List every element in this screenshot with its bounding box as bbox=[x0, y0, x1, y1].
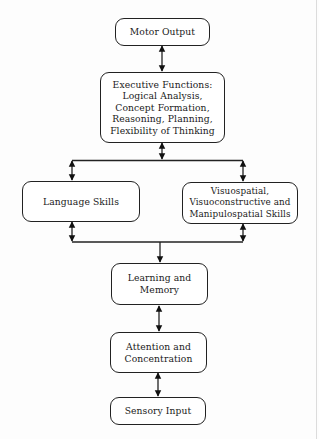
node-label: Motor Output bbox=[130, 26, 195, 38]
node-label: Attention and Concentration bbox=[125, 341, 193, 364]
node-learning-memory: Learning and Memory bbox=[111, 263, 208, 305]
node-attention-concentration: Attention and Concentration bbox=[110, 332, 207, 373]
node-language-skills: Language Skills bbox=[22, 181, 140, 222]
node-label: Visuospatial, Visuoconstructive and Mani… bbox=[189, 186, 290, 220]
node-label: Executive Functions: Logical Analysis, C… bbox=[110, 79, 215, 137]
node-visuospatial-skills: Visuospatial, Visuoconstructive and Mani… bbox=[182, 182, 298, 224]
node-motor-output: Motor Output bbox=[115, 18, 210, 46]
node-sensory-input: Sensory Input bbox=[110, 397, 206, 425]
node-label: Language Skills bbox=[43, 196, 119, 208]
node-label: Learning and Memory bbox=[128, 272, 191, 295]
node-executive-functions: Executive Functions: Logical Analysis, C… bbox=[100, 72, 225, 143]
page-edge-divider bbox=[316, 0, 317, 439]
node-label: Sensory Input bbox=[125, 405, 192, 417]
diagram-canvas: Motor Output Executive Functions: Logica… bbox=[0, 0, 319, 439]
